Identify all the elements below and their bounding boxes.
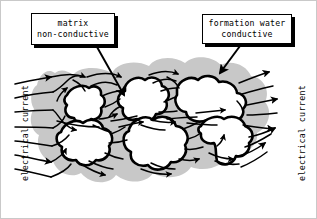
callout-water-line1: formation water	[209, 18, 286, 29]
callout-matrix-line2: non-conductive	[37, 29, 109, 40]
label-electrical-current-right: electrical current	[297, 85, 307, 181]
callout-matrix: matrix non-conductive	[31, 13, 115, 45]
matrix-grains-group	[57, 76, 253, 170]
label-electrical-current-left: electrical current	[20, 85, 30, 181]
callout-formation-water: formation water conductive	[202, 14, 292, 44]
callout-water-line2: conductive	[221, 29, 272, 40]
diagram-figure: matrix non-conductive formation water co…	[0, 0, 317, 219]
callout-matrix-line1: matrix	[58, 18, 89, 29]
